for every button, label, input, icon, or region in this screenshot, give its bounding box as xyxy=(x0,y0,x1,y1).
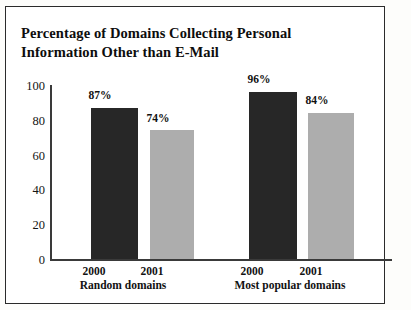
y-tick-40: 40 xyxy=(15,184,45,196)
chart-title-line-2: Information Other than E-Mail xyxy=(21,43,351,62)
group-label-random-domains: Random domains xyxy=(59,279,187,292)
y-tick-20: 20 xyxy=(15,219,45,231)
bar-random-2000[interactable] xyxy=(91,108,138,259)
figure: Percentage of Domains Collecting Persona… xyxy=(0,0,411,310)
bar-value-popular-2000: 96% xyxy=(235,73,283,85)
x-axis-line xyxy=(50,259,392,261)
plot-area xyxy=(50,85,392,259)
x-tick-random-2001: 2001 xyxy=(128,265,176,278)
bar-random-2001[interactable] xyxy=(150,130,194,259)
bar-popular-2001[interactable] xyxy=(308,113,354,259)
y-axis-tick-labels: 100 80 60 40 20 0 xyxy=(12,85,45,259)
x-tick-popular-2000: 2000 xyxy=(228,265,276,278)
chart-title: Percentage of Domains Collecting Persona… xyxy=(21,24,351,62)
group-label-popular-domains: Most popular domains xyxy=(214,279,366,292)
y-tick-0: 0 xyxy=(15,254,45,266)
x-tick-random-2000: 2000 xyxy=(70,265,118,278)
y-tick-100: 100 xyxy=(15,80,45,92)
y-tick-80: 80 xyxy=(15,115,45,127)
bar-value-random-2000: 87% xyxy=(76,89,124,101)
bar-popular-2000[interactable] xyxy=(249,92,297,259)
y-tick-60: 60 xyxy=(15,150,45,162)
bar-value-popular-2001: 84% xyxy=(293,94,341,106)
chart-title-line-1: Percentage of Domains Collecting Persona… xyxy=(21,24,351,43)
x-tick-popular-2001: 2001 xyxy=(287,265,335,278)
chart-frame: Percentage of Domains Collecting Persona… xyxy=(5,6,385,304)
bar-value-random-2001: 74% xyxy=(134,112,182,124)
